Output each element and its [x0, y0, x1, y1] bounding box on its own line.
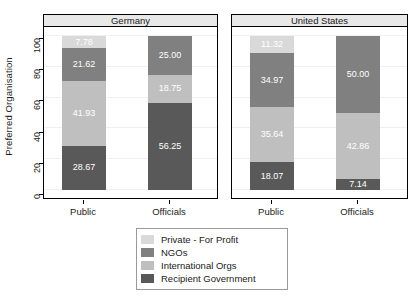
bar-segment[interactable]: 7.78	[62, 36, 106, 48]
bar-segment-value: 18.75	[159, 84, 182, 93]
legend-item[interactable]: Private - For Profit	[141, 233, 282, 246]
y-axis-tick-label: 40	[32, 132, 42, 142]
bar-segment[interactable]: 25.00	[148, 36, 192, 75]
bar-segment-value: 42.86	[347, 142, 370, 151]
bar-segment[interactable]: 21.62	[62, 48, 106, 81]
stacked-bar[interactable]: 25.0018.7556.25	[148, 36, 192, 190]
bar-segment[interactable]: 34.97	[250, 53, 294, 107]
x-axis-tick-mark	[271, 200, 272, 204]
legend-swatch	[141, 248, 154, 257]
bar-segment-value: 56.25	[159, 142, 182, 151]
bar-segment[interactable]: 50.00	[336, 36, 380, 113]
panel-strip-united-states: United States	[231, 14, 408, 27]
plot-area-united-states: 11.3234.9735.6418.0750.0042.867.14	[231, 27, 408, 199]
legend-label: Recipient Government	[161, 274, 256, 284]
bar-segment[interactable]: 35.64	[250, 107, 294, 162]
x-axis-germany: PublicOfficials	[43, 200, 218, 220]
y-axis-title-text: Preferred Organisation	[3, 57, 14, 155]
legend: Private - For ProfitNGOsInternational Or…	[136, 228, 288, 290]
bar-segment[interactable]: 28.67	[62, 146, 106, 190]
x-axis-tick-label: Public	[61, 206, 105, 217]
bar-segment-value: 21.62	[73, 60, 96, 69]
bar-segment-value: 11.32	[261, 40, 283, 49]
stacked-bar[interactable]: 7.7821.6241.9328.67	[62, 36, 106, 190]
x-axis-tick-label: Officials	[335, 206, 379, 217]
plot-area-germany: 7.7821.6241.9328.6725.0018.7556.25	[43, 27, 218, 199]
panel-united-states: United States 11.3234.9735.6418.0750.004…	[231, 14, 408, 199]
x-axis-tick-label: Officials	[147, 206, 191, 217]
panel-title-united-states: United States	[291, 16, 348, 26]
bar-segment[interactable]: 11.32	[250, 36, 294, 53]
legend-swatch	[141, 261, 154, 270]
legend-label: Private - For Profit	[161, 235, 238, 245]
panel-title-germany: Germany	[111, 16, 150, 26]
bar-segment[interactable]: 56.25	[148, 103, 192, 190]
bar-segment-value: 18.07	[261, 172, 284, 181]
y-axis-tick-label: 60	[32, 100, 42, 110]
legend-label: NGOs	[161, 248, 187, 258]
panel-germany: Germany 7.7821.6241.9328.6725.0018.7556.…	[43, 14, 218, 199]
legend-label: International Orgs	[161, 261, 237, 271]
bar-segment-value: 34.97	[261, 76, 284, 85]
y-axis-tick-label: 100	[32, 38, 42, 53]
bar-segment-value: 28.67	[73, 163, 96, 172]
bar-segment[interactable]: 7.14	[336, 179, 380, 190]
bar-segment-value: 7.14	[349, 180, 367, 189]
bar-segment-value: 41.93	[73, 109, 96, 118]
bar-segment[interactable]: 18.75	[148, 75, 192, 104]
y-axis: 020406080100	[17, 30, 43, 202]
stacked-bar-chart: Preferred Organisation 020406080100 Germ…	[0, 0, 412, 306]
y-axis-tick-label: 80	[32, 69, 42, 79]
stacked-bar[interactable]: 11.3234.9735.6418.07	[250, 36, 294, 190]
y-axis-title: Preferred Organisation	[0, 0, 17, 212]
x-axis-united-states: PublicOfficials	[231, 200, 408, 220]
legend-item[interactable]: NGOs	[141, 246, 282, 259]
bar-segment-value: 7.78	[75, 38, 93, 47]
panel-strip-germany: Germany	[43, 14, 218, 27]
x-axis-tick-label: Public	[249, 206, 293, 217]
legend-item[interactable]: International Orgs	[141, 259, 282, 272]
legend-swatch	[141, 235, 154, 244]
bar-segment-value: 25.00	[159, 51, 182, 60]
y-axis-tick-label: 20	[32, 163, 42, 173]
legend-item[interactable]: Recipient Government	[141, 272, 282, 285]
bar-segment[interactable]: 18.07	[250, 162, 294, 190]
x-axis-tick-mark	[83, 200, 84, 204]
bar-segment-value: 50.00	[347, 70, 370, 79]
stacked-bar[interactable]: 50.0042.867.14	[336, 36, 380, 190]
x-axis-tick-mark	[357, 200, 358, 204]
bar-segment[interactable]: 41.93	[62, 81, 106, 146]
bar-segment-value: 35.64	[261, 130, 284, 139]
bar-segment[interactable]: 42.86	[336, 113, 380, 179]
x-axis-tick-mark	[169, 200, 170, 204]
legend-swatch	[141, 274, 154, 283]
